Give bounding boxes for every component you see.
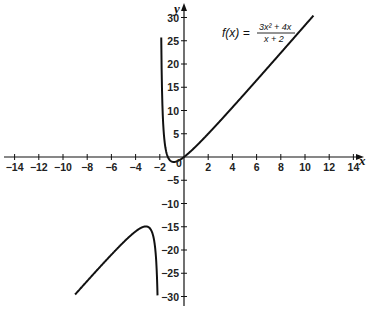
- x-tick-label: 4: [229, 161, 235, 173]
- y-axis-arrow-icon: [181, 3, 187, 11]
- x-tick-label: 6: [254, 161, 260, 173]
- formula-denominator: x + 2: [263, 34, 284, 44]
- x-tick-label: 14: [348, 161, 360, 173]
- x-tick-label: 10: [299, 161, 311, 173]
- axes: [4, 3, 364, 306]
- curve-left-branch: [75, 226, 157, 295]
- y-tick-label: 10: [167, 105, 179, 117]
- y-tick-label: 15: [167, 81, 179, 93]
- y-tick-label: −25: [161, 267, 179, 279]
- y-tick-label: −5: [167, 174, 179, 186]
- y-tick-label: −30: [161, 291, 179, 303]
- y-tick-label: −10: [161, 198, 179, 210]
- formula-lhs: f(x) =: [222, 26, 250, 40]
- x-axis-label: x: [358, 153, 366, 168]
- x-tick-label: −2: [154, 161, 166, 173]
- x-tick-label: 8: [278, 161, 284, 173]
- origin-label: 0: [176, 157, 182, 169]
- y-tick-label: 5: [173, 128, 179, 140]
- y-tick-label: −20: [161, 244, 179, 256]
- formula-numerator: 3x² + 4x: [259, 22, 292, 32]
- y-tick-label: 25: [167, 35, 179, 47]
- function-formula: f(x) = 3x² + 4x x + 2: [222, 22, 295, 44]
- chart: −14−12−10−8−6−4−22468101214−30−25−20−15−…: [0, 0, 371, 310]
- function-curves: [75, 16, 313, 296]
- x-tick-label: −6: [105, 161, 117, 173]
- y-axis-label: y: [172, 1, 180, 16]
- y-tick-label: −15: [161, 221, 179, 233]
- x-tick-label: −10: [54, 161, 72, 173]
- x-tick-label: −8: [81, 161, 93, 173]
- x-tick-label: −4: [130, 161, 142, 173]
- x-tick-label: −14: [6, 161, 24, 173]
- x-tick-label: 2: [205, 161, 211, 173]
- x-tick-label: −12: [30, 161, 48, 173]
- x-tick-label: 12: [323, 161, 335, 173]
- y-tick-label: 20: [167, 58, 179, 70]
